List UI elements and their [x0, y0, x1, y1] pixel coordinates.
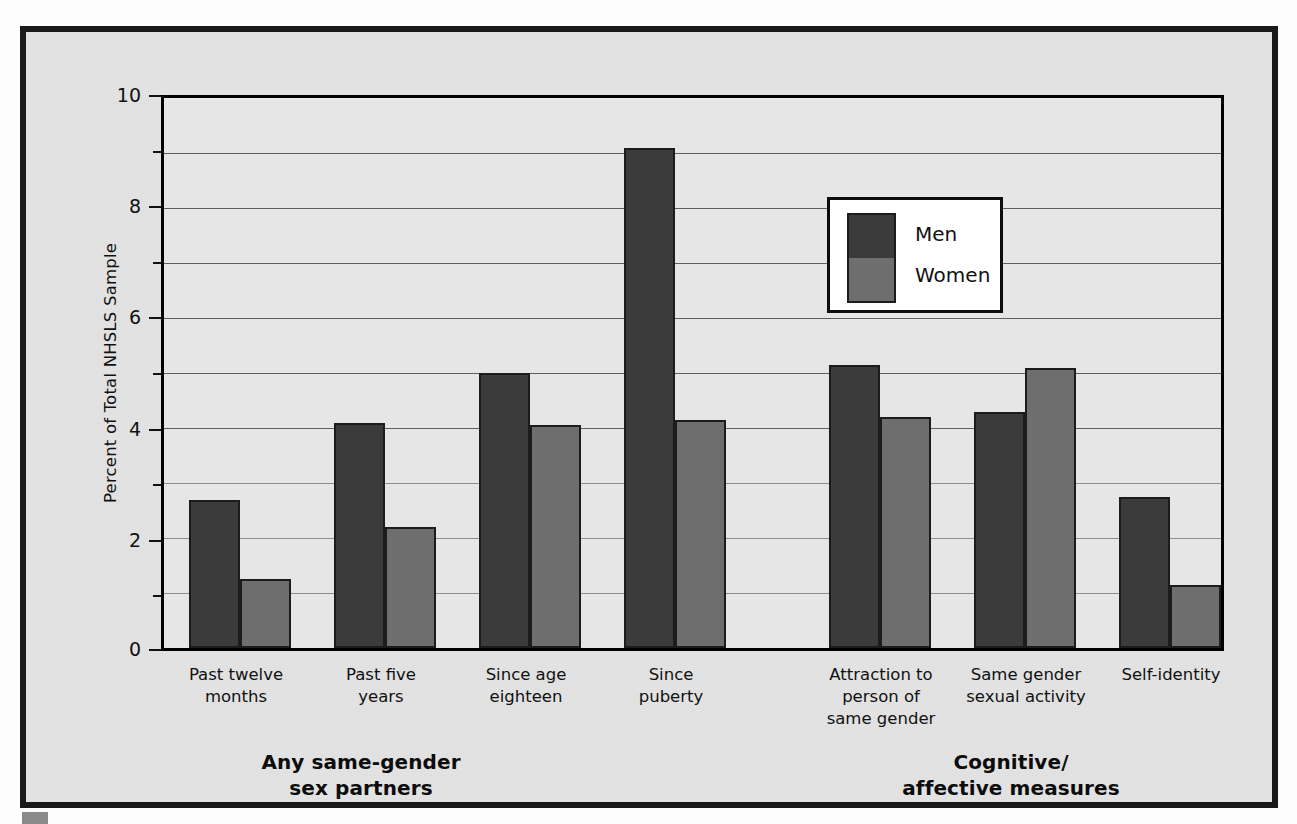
y-tick-label-8: 8 — [129, 195, 141, 217]
y-axis-title-container: Percent of Total NHSLS Sample — [62, 95, 102, 651]
y-tick-label-4: 4 — [129, 418, 141, 440]
y-tick-7 — [153, 262, 161, 264]
bar-men-self-identity — [1119, 497, 1170, 648]
legend-label-women: Women — [915, 263, 990, 287]
category-line: same gender — [827, 709, 936, 728]
legend: Men Women — [827, 197, 1003, 313]
y-tick-6 — [149, 317, 161, 319]
legend-swatch-men — [849, 215, 894, 258]
bar-women-self-identity — [1170, 585, 1221, 648]
group-heading-line: affective measures — [902, 776, 1119, 800]
y-tick-0 — [149, 649, 161, 651]
bar-men-same-gender-sexual-activity — [974, 412, 1025, 649]
y-axis: 10 8 6 4 2 0 — [144, 95, 161, 651]
bar-men-since-puberty — [624, 148, 675, 649]
category-line: Since — [649, 665, 694, 684]
bar-men-since-age-eighteen — [479, 373, 530, 648]
category-line: eighteen — [490, 687, 563, 706]
bar-women-same-gender-sexual-activity — [1025, 368, 1076, 649]
group-heading-any-same-gender-sex-partners: Any same-gender sex partners — [196, 750, 526, 801]
y-tick-9 — [153, 151, 161, 153]
plot-area: Men Women — [161, 95, 1224, 651]
gridline-6 — [164, 318, 1221, 319]
category-line: years — [358, 687, 403, 706]
category-label-past-five-years: Past five years — [301, 664, 461, 708]
y-tick-5 — [153, 373, 161, 375]
chart-page: Percent of Total NHSLS Sample 10 8 6 4 2… — [0, 0, 1297, 824]
gridline-9 — [164, 153, 1221, 154]
y-tick-4 — [149, 429, 161, 431]
category-line: person of — [842, 687, 920, 706]
y-axis-title: Percent of Total NHSLS Sample — [101, 223, 120, 523]
category-label-since-puberty: Since puberty — [591, 664, 751, 708]
group-heading-line: Cognitive/ — [953, 750, 1068, 774]
bar-men-past-five-years — [334, 423, 385, 649]
y-tick-label-0: 0 — [129, 638, 141, 660]
y-tick-label-2: 2 — [129, 529, 141, 551]
bar-women-past-five-years — [385, 527, 436, 648]
bar-men-attraction-same-gender — [829, 365, 880, 648]
category-line: puberty — [639, 687, 704, 706]
bar-men-past-twelve-months — [189, 500, 240, 649]
figure-frame: Percent of Total NHSLS Sample 10 8 6 4 2… — [20, 26, 1278, 808]
y-tick-label-10: 10 — [117, 84, 141, 106]
bar-women-past-twelve-months — [240, 579, 291, 648]
category-line: Attraction to — [829, 665, 932, 684]
gridline-7 — [164, 263, 1221, 264]
legend-swatch-group — [847, 213, 896, 303]
y-tick-3 — [153, 484, 161, 486]
category-label-self-identity: Self-identity — [1086, 664, 1256, 686]
bar-women-since-puberty — [675, 420, 726, 648]
group-heading-cognitive-affective-measures: Cognitive/ affective measures — [846, 750, 1176, 801]
bar-women-attraction-same-gender — [880, 417, 931, 648]
legend-swatch-women — [849, 258, 894, 301]
category-line: sexual activity — [966, 687, 1085, 706]
category-line: Since age — [486, 665, 567, 684]
y-tick-10 — [149, 95, 161, 97]
category-line: months — [205, 687, 267, 706]
category-label-since-age-eighteen: Since age eighteen — [446, 664, 606, 708]
category-label-past-twelve-months: Past twelve months — [156, 664, 316, 708]
corner-mark-artifact — [22, 812, 48, 824]
group-heading-line: Any same-gender — [261, 750, 460, 774]
category-line: Past twelve — [189, 665, 283, 684]
y-tick-1 — [153, 595, 161, 597]
y-tick-label-6: 6 — [129, 306, 141, 328]
category-line: Same gender — [971, 665, 1082, 684]
bar-women-since-age-eighteen — [530, 425, 581, 648]
category-line: Past five — [346, 665, 416, 684]
category-line: Self-identity — [1121, 665, 1220, 684]
gridline-8 — [164, 208, 1221, 209]
y-tick-8 — [149, 206, 161, 208]
legend-label-men: Men — [915, 222, 957, 246]
group-heading-line: sex partners — [289, 776, 432, 800]
y-tick-2 — [149, 540, 161, 542]
